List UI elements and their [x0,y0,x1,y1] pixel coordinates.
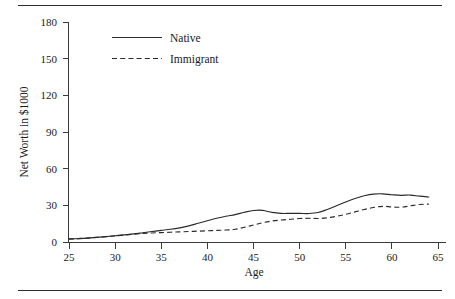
x-tick-label: 40 [202,251,214,263]
chart-legend: Native Immigrant [112,32,219,66]
x-axis-title: Age [244,266,263,279]
figure-container: 0306090120150180 Net Worth in $1000 2530… [0,0,455,299]
line-chart: 0306090120150180 Net Worth in $1000 2530… [0,0,455,299]
x-tick-label: 45 [248,251,260,263]
y-tick-label: 90 [46,126,58,138]
y-tick-label: 150 [41,53,58,65]
y-tick-label: 30 [46,199,58,211]
legend-label-immigrant: Immigrant [170,53,219,66]
x-tick-label-group: 253035404550556065 [64,251,445,263]
series-line-immigrant [69,204,429,239]
x-axis: 253035404550556065 Age [64,243,447,280]
y-axis: 0306090120150180 Net Worth in $1000 [18,16,69,248]
x-tick-label: 50 [294,251,306,263]
series-group [69,194,429,239]
y-tick-group [63,22,69,242]
x-tick-label: 65 [433,251,445,263]
x-tick-label: 60 [386,251,398,263]
x-tick-label: 35 [156,251,168,263]
y-axis-title: Net Worth in $1000 [18,86,30,177]
y-tick-label: 120 [41,89,58,101]
x-tick-group [69,243,438,249]
x-tick-label: 55 [340,251,352,263]
y-tick-label: 180 [41,16,58,28]
x-tick-label: 30 [110,251,122,263]
legend-label-native: Native [170,32,201,44]
y-tick-label-group: 0306090120150180 [41,16,58,248]
y-tick-label: 0 [52,236,58,248]
x-tick-label: 25 [64,251,76,263]
y-tick-label: 60 [46,163,58,175]
series-line-native [69,194,429,239]
